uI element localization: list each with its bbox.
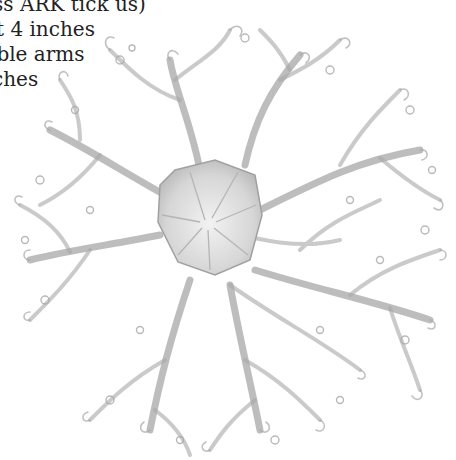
central-disc	[158, 160, 262, 275]
basket-star-illustration	[0, 0, 456, 460]
